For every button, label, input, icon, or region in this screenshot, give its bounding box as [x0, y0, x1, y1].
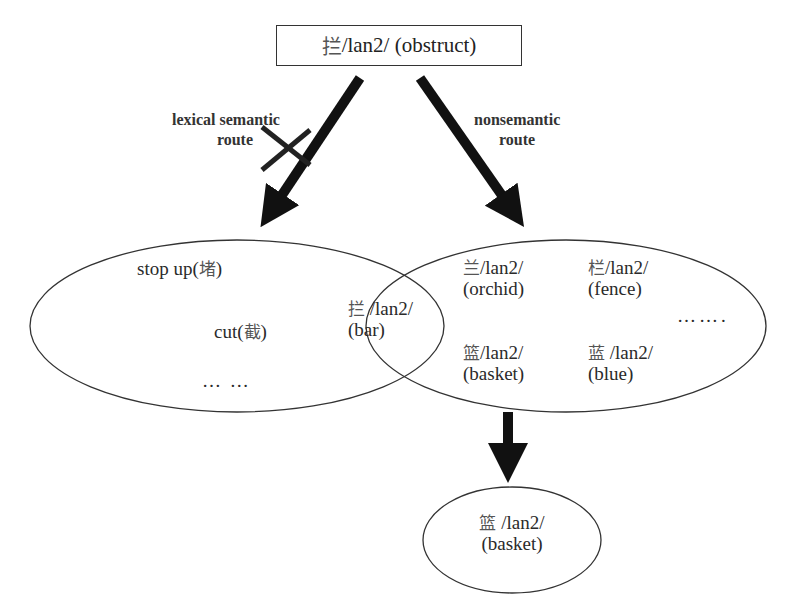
overlap-item-pinyin: /lan2/ — [370, 298, 413, 319]
left-item-close: ) — [216, 258, 222, 279]
result-node-pinyin: /lan2/ — [501, 512, 544, 533]
top-node-char: 拦 — [322, 31, 342, 60]
left-item-text: cut( — [214, 321, 244, 342]
lexical-route-label: lexical semantic route — [172, 110, 280, 150]
right-item-gloss: (blue) — [588, 364, 653, 385]
right-item-gloss: (basket) — [463, 364, 524, 385]
left-item-cut: cut(截) — [214, 322, 267, 343]
lexical-route-line2: route — [172, 130, 280, 150]
overlap-item: 拦 /lan2/ (bar) — [348, 299, 413, 341]
right-item-char: 篮 — [463, 343, 480, 363]
right-item-gloss: (orchid) — [463, 279, 524, 300]
right-item-pinyin: /lan2/ — [610, 342, 653, 363]
nonsemantic-route-line1: nonsemantic — [474, 110, 560, 130]
right-item-char: 兰 — [463, 258, 480, 278]
right-item-basket: 篮/lan2/ (basket) — [463, 343, 524, 385]
result-node-gloss: (basket) — [452, 534, 572, 555]
left-set-ellipsis: … … — [202, 371, 251, 392]
right-item-pinyin: /lan2/ — [480, 342, 523, 363]
right-item-char: 蓝 — [588, 343, 605, 363]
nonsemantic-route-label: nonsemantic route — [474, 110, 560, 150]
left-item-char: 截 — [244, 322, 261, 342]
right-item-pinyin: /lan2/ — [605, 257, 648, 278]
nonsemantic-route-line2: route — [474, 130, 560, 150]
right-item-char: 栏 — [588, 258, 605, 278]
left-item-char: 堵 — [199, 259, 216, 279]
right-item-gloss: (fence) — [588, 279, 648, 300]
left-item-text: stop up( — [137, 258, 199, 279]
overlap-item-char: 拦 — [348, 299, 365, 319]
right-item-orchid: 兰/lan2/ (orchid) — [463, 258, 524, 300]
top-node: 拦/lan2/ (obstruct) — [276, 25, 522, 66]
left-item-close: ) — [261, 321, 267, 342]
right-item-blue: 蓝 /lan2/ (blue) — [588, 343, 653, 385]
lexical-route-line1: lexical semantic — [172, 110, 280, 130]
right-set-ellipsis: ……. — [677, 306, 729, 327]
top-node-pinyin: /lan2/ — [342, 33, 390, 58]
left-item-stop-up: stop up(堵) — [137, 259, 222, 280]
result-node-char: 篮 — [479, 513, 496, 533]
result-node: 篮 /lan2/ (basket) — [452, 513, 572, 555]
top-node-gloss: (obstruct) — [395, 33, 477, 58]
right-item-fence: 栏/lan2/ (fence) — [588, 258, 648, 300]
right-item-pinyin: /lan2/ — [480, 257, 523, 278]
overlap-item-gloss: (bar) — [348, 320, 413, 341]
lexical-route-arrow — [276, 78, 360, 204]
